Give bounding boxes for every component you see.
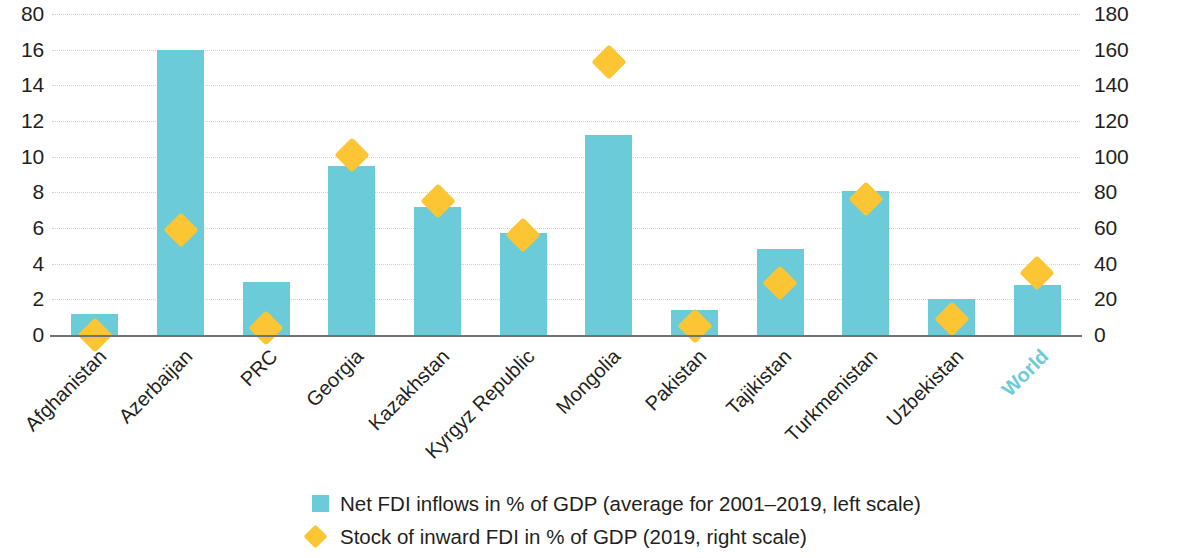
bar-georgia [328,166,375,335]
legend-label-stock-inward-fdi: Stock of inward FDI in % of GDP (2019, r… [340,526,807,548]
left-axis-tick-label: 80 [0,3,44,24]
left-axis-tick-label: 4 [0,253,44,274]
bar-azerbaijan [157,50,204,335]
bar-world [1014,285,1061,335]
right-axis-tick-label: 160 [1094,39,1164,60]
left-axis-tick-label: 6 [0,217,44,238]
bar-mongolia [585,135,632,335]
left-axis-tick-label: 16 [0,39,44,60]
left-axis-tick-label: 8 [0,181,44,202]
right-axis-tick-label: 80 [1094,181,1164,202]
left-axis-tick-label: 2 [0,288,44,309]
legend-item-net-fdi-inflows: Net FDI inflows in % of GDP (average for… [312,487,1032,520]
right-axis-tick-label: 120 [1094,110,1164,131]
right-axis-tick-label: 60 [1094,217,1164,238]
left-axis-tick-label: 12 [0,110,44,131]
right-axis-tick-label: 140 [1094,74,1164,95]
bar-kazakhstan [414,207,461,335]
right-axis-tick-label: 100 [1094,146,1164,167]
legend-label-net-fdi-inflows: Net FDI inflows in % of GDP (average for… [340,493,921,515]
chart-legend: Net FDI inflows in % of GDP (average for… [312,487,1032,553]
right-axis-tick-label: 180 [1094,3,1164,24]
left-axis-tick-label: 10 [0,146,44,167]
legend-diamond-shape [303,524,327,548]
legend-square-swatch-icon [312,495,329,512]
right-axis-tick-label: 40 [1094,253,1164,274]
category-axis-labels: AfghanistanAzerbaijanPRCGeorgiaKazakhsta… [0,337,1192,467]
legend-diamond-swatch-icon [312,526,329,548]
diamond-marker-mongolia [591,44,626,79]
fdi-chart-figure: 801614121086420 180160140120100806040200… [0,0,1192,558]
left-axis-tick-label: 14 [0,74,44,95]
category-label-prc: PRC [0,345,282,558]
plot-area [52,14,1080,335]
right-axis-tick-label: 20 [1094,288,1164,309]
legend-item-stock-inward-fdi: Stock of inward FDI in % of GDP (2019, r… [312,520,1032,553]
